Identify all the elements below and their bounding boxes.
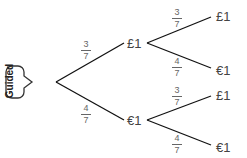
denominator: 7 (174, 145, 179, 155)
numerator: 3 (174, 7, 179, 17)
denominator: 7 (174, 97, 179, 107)
numerator: 4 (174, 56, 179, 66)
prob-pound-euro: 47 (172, 57, 182, 78)
denominator: 7 (83, 51, 88, 61)
outcome-pound-pound: £1 (216, 10, 230, 23)
denominator: 7 (174, 19, 179, 29)
prob-first-pound: 37 (81, 40, 91, 61)
tree-lines (0, 0, 247, 158)
outcome-first-euro: €1 (127, 114, 141, 127)
numerator: 4 (83, 103, 88, 113)
prob-euro-euro: 47 (172, 134, 182, 155)
outcome-pound-euro: €1 (216, 64, 230, 77)
outcome-first-pound: £1 (127, 37, 141, 50)
numerator: 3 (83, 39, 88, 49)
prob-first-euro: 47 (81, 104, 91, 125)
denominator: 7 (174, 68, 179, 78)
outcome-euro-pound: £1 (216, 89, 230, 102)
prob-euro-pound: 37 (172, 86, 182, 107)
outcome-euro-euro: €1 (216, 141, 230, 154)
denominator: 7 (83, 115, 88, 125)
guided-badge: Guided (3, 63, 17, 99)
numerator: 4 (174, 133, 179, 143)
numerator: 3 (174, 85, 179, 95)
prob-pound-pound: 37 (172, 8, 182, 29)
